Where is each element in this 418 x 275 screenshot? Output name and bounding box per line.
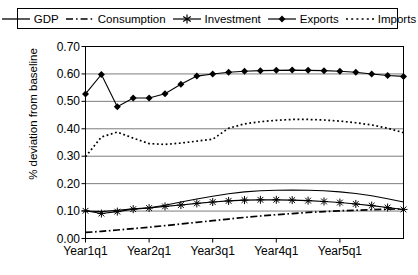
marker-diamond bbox=[177, 81, 184, 88]
marker-asterisk bbox=[225, 197, 233, 205]
series-line-imports bbox=[86, 119, 404, 156]
marker-asterisk bbox=[288, 196, 296, 204]
marker-asterisk bbox=[400, 205, 408, 213]
series-exports bbox=[82, 67, 407, 111]
series-imports bbox=[86, 119, 404, 156]
marker-asterisk bbox=[161, 202, 169, 210]
marker-asterisk bbox=[352, 200, 360, 208]
marker-diamond bbox=[146, 95, 153, 102]
marker-asterisk bbox=[113, 208, 121, 216]
marker-diamond bbox=[368, 70, 375, 77]
marker-diamond bbox=[225, 69, 232, 76]
marker-asterisk bbox=[97, 210, 105, 218]
marker-asterisk bbox=[272, 196, 280, 204]
marker-diamond bbox=[352, 69, 359, 76]
marker-asterisk bbox=[256, 196, 264, 204]
marker-diamond bbox=[162, 90, 169, 97]
marker-asterisk bbox=[145, 204, 153, 212]
marker-diamond bbox=[289, 67, 296, 74]
marker-asterisk bbox=[193, 199, 201, 207]
marker-diamond bbox=[321, 67, 328, 74]
marker-diamond bbox=[384, 72, 391, 79]
marker-asterisk bbox=[336, 199, 344, 207]
marker-asterisk bbox=[209, 198, 217, 206]
marker-asterisk bbox=[304, 197, 312, 205]
marker-diamond bbox=[273, 67, 280, 74]
marker-asterisk bbox=[320, 197, 328, 205]
marker-asterisk bbox=[177, 201, 185, 209]
marker-diamond bbox=[305, 67, 312, 74]
marker-asterisk bbox=[368, 202, 376, 210]
marker-diamond bbox=[130, 95, 137, 102]
marker-diamond bbox=[209, 70, 216, 77]
marker-diamond bbox=[257, 67, 264, 74]
marker-asterisk bbox=[129, 205, 137, 213]
series-investment bbox=[82, 196, 408, 218]
marker-asterisk bbox=[241, 196, 249, 204]
marker-asterisk bbox=[384, 204, 392, 212]
marker-diamond bbox=[114, 103, 121, 110]
